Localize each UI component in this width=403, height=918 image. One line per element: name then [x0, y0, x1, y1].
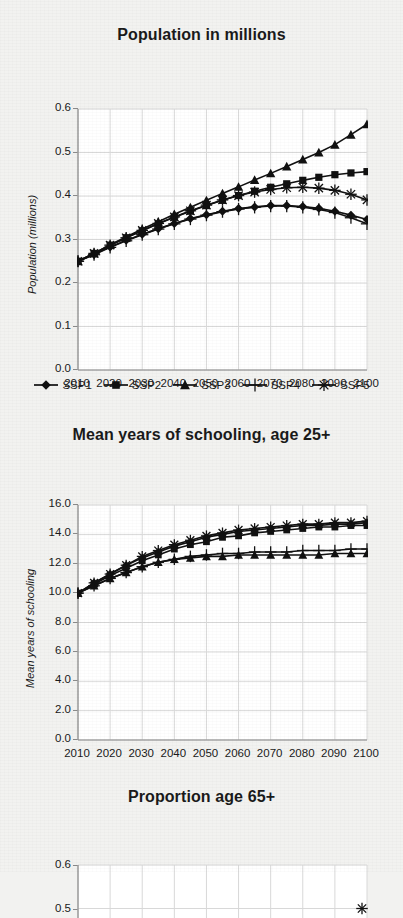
y-tick-label: 0.2 [37, 275, 71, 287]
chart-panel-schooling: Mean years of schooling, age 25+ Mean ye… [0, 404, 403, 760]
legend-label: SSP5 [340, 379, 369, 391]
plus-marker [242, 378, 268, 392]
x-tick-label: 2010 [60, 747, 94, 759]
legend-label: SSP3 [201, 379, 230, 391]
y-tick-label: 2.0 [37, 703, 71, 715]
y-tick-label: 10.0 [37, 585, 71, 597]
schooling-line-chart [77, 504, 368, 741]
x-tick-label: 2060 [221, 747, 255, 759]
y-tick-label: 0.1 [37, 319, 71, 331]
y-axis-label-schooling: Mean years of schooling [24, 568, 36, 687]
triangle-marker [172, 378, 198, 392]
legend-label: SSP2 [132, 379, 161, 391]
chart-panel-population: Population in millions Population (milli… [0, 0, 403, 404]
y-tick-label: 12.0 [37, 556, 71, 568]
x-tick-label: 2070 [253, 747, 287, 759]
x-tick-label: 2030 [124, 747, 158, 759]
y-tick-label: 0.6 [37, 858, 71, 870]
y-tick-label: 16.0 [37, 497, 71, 509]
y-tick-label: 0.0 [37, 732, 71, 744]
legend-item-ssp1[interactable]: SSP1 [33, 378, 91, 392]
y-tick-label: 0.0 [37, 362, 71, 374]
chart-title-population: Population in millions [0, 0, 403, 44]
x-tick-label: 2040 [156, 747, 190, 759]
legend-item-ssp3[interactable]: SSP3 [172, 378, 230, 392]
y-tick-label: 4.0 [37, 673, 71, 685]
y-tick-label: 0.3 [37, 232, 71, 244]
x-tick-label: 2090 [317, 747, 351, 759]
x-tick-label: 2100 [349, 747, 383, 759]
chart-title-schooling: Mean years of schooling, age 25+ [0, 404, 403, 444]
chart-legend: SSP1SSP2SSP3SSP4SSP5 [0, 378, 403, 392]
series-SSP5 [356, 903, 368, 915]
chart-panel-proportion-65-plus: Proportion age 65+ 0.60.5 [0, 760, 403, 872]
diamond-marker [33, 378, 59, 392]
legend-label: SSP1 [62, 379, 91, 391]
y-tick-label: 0.5 [37, 902, 71, 914]
legend-label: SSP4 [271, 379, 300, 391]
asterisk-marker [311, 378, 337, 392]
legend-item-ssp5[interactable]: SSP5 [311, 378, 369, 392]
y-tick-label: 0.4 [37, 188, 71, 200]
chart-title-proportion-65-plus: Proportion age 65+ [0, 760, 403, 806]
proportion-65-plus-line-chart [77, 864, 368, 918]
legend-item-ssp2[interactable]: SSP2 [103, 378, 161, 392]
y-tick-label: 0.6 [37, 101, 71, 113]
y-tick-label: 14.0 [37, 526, 71, 538]
square-marker [103, 378, 129, 392]
y-tick-label: 8.0 [37, 615, 71, 627]
legend-item-ssp4[interactable]: SSP4 [242, 378, 300, 392]
x-tick-label: 2080 [285, 747, 319, 759]
y-tick-label: 0.5 [37, 145, 71, 157]
y-tick-label: 6.0 [37, 644, 71, 656]
x-tick-label: 2050 [188, 747, 222, 759]
population-line-chart [77, 108, 368, 371]
x-tick-label: 2020 [92, 747, 126, 759]
